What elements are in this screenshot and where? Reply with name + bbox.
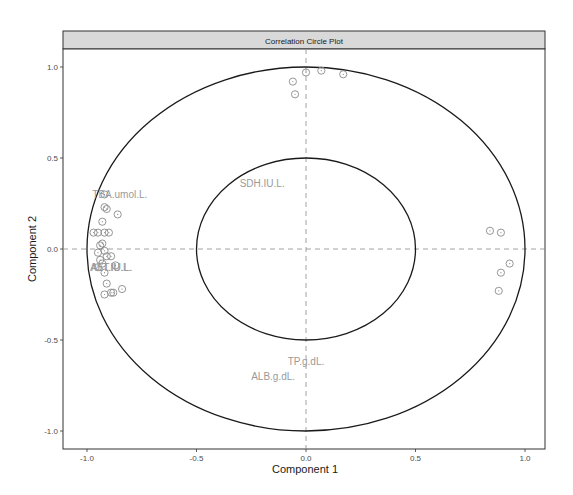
x-tick-label: -0.5 (190, 454, 204, 463)
y-tick-label: 0.0 (47, 245, 59, 254)
y-tick-label: -1.0 (44, 427, 58, 436)
facet-strip: Correlation Circle Plot (63, 31, 545, 49)
x-axis: -1.0-0.50.00.51.0 (80, 449, 531, 463)
y-tick-label: 0.5 (47, 154, 59, 163)
chart-title: Correlation Circle Plot (265, 37, 344, 46)
y-axis: -1.0-0.50.00.51.0 (44, 63, 63, 436)
variable-label: ALT.IU.L. (91, 262, 131, 273)
y-axis-title: Component 2 (26, 216, 38, 282)
variable-label: TBA.umol.L. (92, 189, 147, 200)
x-tick-label: -1.0 (80, 454, 94, 463)
correlation-circle-chart: Correlation Circle Plot TBA.umol.L.AST.I… (0, 0, 573, 495)
x-tick-label: 0.5 (410, 454, 422, 463)
variable-label: SDH.IU.L. (240, 178, 285, 189)
x-tick-label: 1.0 (519, 454, 531, 463)
y-tick-label: -0.5 (44, 336, 58, 345)
y-tick-label: 1.0 (47, 63, 59, 72)
variable-label: ALB.g.dL. (251, 371, 295, 382)
x-tick-label: 0.0 (300, 454, 312, 463)
variable-label: TP.g.dL. (288, 356, 325, 367)
x-axis-title: Component 1 (272, 463, 338, 475)
